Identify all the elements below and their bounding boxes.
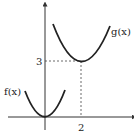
label-g: g(x) xyxy=(111,26,131,37)
function-graph: g(x) f(x) 3 2 xyxy=(0,0,134,134)
x-tick-2: 2 xyxy=(78,122,84,133)
curve-g xyxy=(53,24,110,62)
y-tick-3: 3 xyxy=(36,56,42,67)
label-f: f(x) xyxy=(4,86,21,97)
